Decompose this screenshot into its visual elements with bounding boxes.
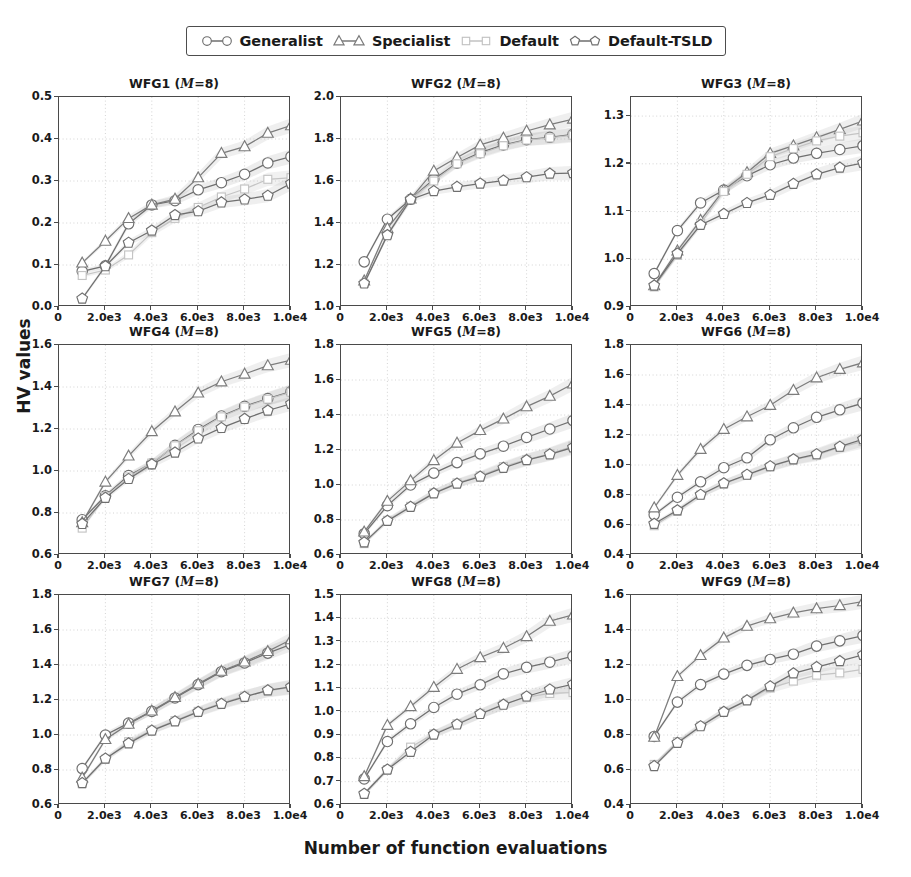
panel-wfg3: WFG3 (M=8)0.91.01.11.21.302.0e34.0e36.0e…: [630, 76, 862, 306]
plot-area: [630, 594, 862, 804]
x-tick-label: 6.0e3: [180, 559, 215, 572]
y-tick-mark: [626, 664, 630, 665]
y-tick-label: 0.4: [12, 131, 52, 145]
y-tick-mark: [336, 180, 340, 181]
y-tick-mark: [54, 264, 58, 265]
y-tick-mark: [54, 344, 58, 345]
y-tick-label: 0.8: [12, 762, 52, 776]
legend-entry-default[interactable]: Default: [459, 33, 559, 49]
y-tick-mark: [54, 512, 58, 513]
x-tick-label: 4.0e3: [133, 809, 168, 822]
x-tick-mark: [815, 306, 816, 310]
y-tick-label: 1.6: [294, 372, 334, 386]
legend-marker-pentagon-icon: [568, 33, 602, 49]
legend-entry-specialist[interactable]: Specialist: [332, 33, 451, 49]
x-tick-mark: [432, 804, 433, 808]
plot-area: [340, 594, 572, 804]
x-tick-label: 0: [626, 809, 634, 822]
x-tick-label: 0: [336, 311, 344, 324]
x-tick-mark: [386, 306, 387, 310]
x-tick-mark: [525, 306, 526, 310]
y-tick-mark: [626, 344, 630, 345]
plot-canvas: [631, 595, 862, 804]
x-tick-label: 8.0e3: [508, 559, 543, 572]
y-tick-mark: [336, 757, 340, 758]
y-tick-label: 0.8: [294, 512, 334, 526]
x-tick-mark: [629, 306, 630, 310]
y-tick-label: 1.5: [294, 587, 334, 601]
x-tick-mark: [243, 554, 244, 558]
x-tick-label: 0: [54, 809, 62, 822]
plot-area: [340, 344, 572, 554]
panel-grid: WFG1 (M=8)0.00.10.20.30.40.502.0e34.0e36…: [0, 62, 911, 824]
y-tick-label: 1.0: [12, 463, 52, 477]
y-tick-mark: [336, 780, 340, 781]
x-tick-label: 6.0e3: [180, 809, 215, 822]
y-tick-mark: [336, 519, 340, 520]
x-tick-label: 2.0e3: [659, 311, 694, 324]
panel-wfg7: WFG7 (M=8)0.60.81.01.21.41.61.802.0e34.0…: [58, 574, 290, 804]
x-tick-mark: [289, 306, 290, 310]
x-tick-mark: [571, 306, 572, 310]
x-tick-mark: [676, 554, 677, 558]
y-tick-label: 1.6: [584, 587, 624, 601]
x-tick-mark: [525, 554, 526, 558]
y-tick-label: 0.8: [12, 505, 52, 519]
legend-label: Default: [499, 33, 559, 49]
x-tick-label: 0: [336, 809, 344, 822]
y-tick-label: 1.4: [294, 407, 334, 421]
y-tick-mark: [54, 428, 58, 429]
y-tick-label: 1.0: [584, 457, 624, 471]
y-tick-mark: [336, 344, 340, 345]
x-tick-label: 2.0e3: [369, 809, 404, 822]
y-tick-mark: [626, 258, 630, 259]
y-tick-label: 0.6: [584, 517, 624, 531]
x-tick-label: 6.0e3: [462, 311, 497, 324]
panel-wfg2: WFG2 (M=8)1.01.21.41.61.82.002.0e34.0e36…: [340, 76, 572, 306]
x-tick-label: 4.0e3: [133, 311, 168, 324]
panel-wfg4: WFG4 (M=8)0.60.81.01.21.41.602.0e34.0e36…: [58, 324, 290, 554]
plot-canvas: [631, 97, 862, 306]
x-tick-mark: [769, 554, 770, 558]
x-tick-label: 2.0e3: [87, 559, 122, 572]
x-tick-mark: [386, 804, 387, 808]
x-tick-label: 6.0e3: [752, 311, 787, 324]
legend-marker-square-icon: [459, 33, 493, 49]
x-tick-label: 8.0e3: [508, 311, 543, 324]
plot-area: [630, 96, 862, 306]
y-tick-label: 1.6: [584, 367, 624, 381]
y-tick-label: 1.0: [294, 299, 334, 313]
y-tick-mark: [54, 470, 58, 471]
x-tick-mark: [104, 554, 105, 558]
y-tick-mark: [336, 687, 340, 688]
y-tick-mark: [54, 629, 58, 630]
plot-canvas: [341, 345, 572, 554]
y-tick-label: 1.2: [294, 657, 334, 671]
y-tick-mark: [626, 404, 630, 405]
x-tick-mark: [629, 554, 630, 558]
y-tick-mark: [54, 138, 58, 139]
x-tick-label: 0: [54, 559, 62, 572]
y-tick-label: 0.6: [12, 797, 52, 811]
y-tick-label: 1.2: [294, 442, 334, 456]
y-tick-label: 1.1: [294, 680, 334, 694]
x-tick-label: 8.0e3: [226, 559, 261, 572]
panel-wfg6: WFG6 (M=8)0.40.60.81.01.21.41.61.802.0e3…: [630, 324, 862, 554]
x-tick-label: 2.0e3: [87, 809, 122, 822]
y-tick-label: 1.3: [294, 634, 334, 648]
y-tick-label: 1.2: [584, 156, 624, 170]
x-tick-label: 0: [626, 311, 634, 324]
y-tick-mark: [626, 464, 630, 465]
legend-entry-default-tsld[interactable]: Default-TSLD: [568, 33, 713, 49]
x-axis-label: Number of function evaluations: [0, 838, 911, 858]
y-tick-mark: [336, 449, 340, 450]
y-tick-label: 0.6: [12, 547, 52, 561]
x-tick-mark: [197, 554, 198, 558]
y-tick-label: 1.8: [12, 587, 52, 601]
legend-label: Generalist: [240, 33, 323, 49]
x-tick-mark: [150, 554, 151, 558]
legend-entry-generalist[interactable]: Generalist: [200, 33, 323, 49]
y-tick-mark: [336, 640, 340, 641]
y-tick-mark: [626, 594, 630, 595]
y-tick-label: 1.4: [12, 657, 52, 671]
